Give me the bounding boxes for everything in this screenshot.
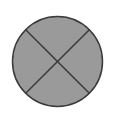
circle-with-x-figure: circle divided into four sectors by two …	[0, 0, 114, 120]
figure-canvas: circle divided into four sectors by two …	[0, 0, 114, 120]
